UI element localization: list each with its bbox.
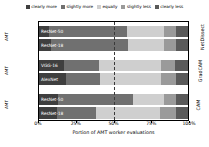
group-name-gradcam: GradCAM <box>190 68 208 74</box>
legend-label-slightly-less: slightly less <box>127 4 151 9</box>
median-reference-line <box>114 22 115 120</box>
bar-segment-clearly-less <box>176 107 188 119</box>
group-axis-label-netdissect: AMT <box>0 34 14 39</box>
legend-entry-clearly-less: clearly less <box>155 4 183 9</box>
bar-segment-equally <box>100 73 161 85</box>
plot-area: ResNet-50ResNet-18VGG-16AlexNetResNet-50… <box>38 21 189 121</box>
legend-label-clearly-less: clearly less <box>160 4 183 9</box>
bar-segment-clearly-more <box>39 39 51 51</box>
plot-inner: ResNet-50ResNet-18VGG-16AlexNetResNet-50… <box>39 22 188 120</box>
bar-segment-slightly-less <box>160 107 176 119</box>
bar-segment-equally <box>128 39 164 51</box>
x-tick-label-0: 0% <box>34 121 41 127</box>
bar-segment-slightly-more <box>64 60 98 72</box>
bar-segment-clearly-less <box>176 26 188 38</box>
group-axis-label-cam: AMT <box>0 102 14 107</box>
group-name-cam: CAM <box>190 102 208 108</box>
bar-segment-clearly-less <box>176 39 188 51</box>
legend-swatch-slightly-more <box>61 5 65 9</box>
bar-segment-slightly-more <box>51 39 128 51</box>
bar-segment-slightly-more <box>58 94 133 106</box>
bar-segment-clearly-more <box>39 73 66 85</box>
bar-segment-equally <box>127 26 164 38</box>
legend-label-slightly-more: slightly more <box>66 4 93 9</box>
legend-label-equally: equally <box>103 4 118 9</box>
legend-label-clearly-more: clearly more <box>31 4 57 9</box>
bar-segment-slightly-less <box>161 60 174 72</box>
bar-segment-slightly-more <box>57 107 96 119</box>
x-tick-label-25: 25% <box>71 121 81 127</box>
bar-segment-slightly-less <box>164 26 176 38</box>
bar-segment-equally <box>133 94 164 106</box>
bar-segment-slightly-less <box>164 39 176 51</box>
chart-legend: clearly more slightly more equally sligh… <box>0 4 209 9</box>
legend-swatch-clearly-less <box>155 5 159 9</box>
x-axis-label: Portion of AMT worker evaluations <box>38 130 189 136</box>
group-axis-label-gradcam: AMT <box>0 68 14 73</box>
legend-entry-equally: equally <box>97 4 117 9</box>
bar-segment-clearly-less <box>176 73 188 85</box>
bar-segment-slightly-more <box>66 73 100 85</box>
bar-segment-equally <box>99 60 162 72</box>
legend-swatch-slightly-less <box>121 5 125 9</box>
x-tick-label-50: 50% <box>108 121 118 127</box>
group-name-netdissect: NetDissect <box>190 34 208 40</box>
bar-segment-clearly-more <box>39 107 57 119</box>
x-tick-label-75: 75% <box>146 121 156 127</box>
x-tick-label-100: 100% <box>182 121 195 127</box>
bar-segment-equally <box>96 107 160 119</box>
legend-swatch-clearly-more <box>26 5 30 9</box>
bar-segment-slightly-less <box>164 94 176 106</box>
bar-segment-clearly-less <box>175 60 188 72</box>
legend-swatch-equally <box>97 5 101 9</box>
bar-segment-clearly-more <box>39 94 58 106</box>
bar-segment-clearly-more <box>39 26 49 38</box>
bar-segment-slightly-less <box>161 73 176 85</box>
legend-entry-slightly-less: slightly less <box>121 4 150 9</box>
bar-segment-clearly-less <box>176 94 188 106</box>
legend-entry-slightly-more: slightly more <box>61 4 93 9</box>
bar-segment-slightly-more <box>49 26 126 38</box>
legend-entry-clearly-more: clearly more <box>26 4 57 9</box>
bar-segment-clearly-more <box>39 60 64 72</box>
chart-figure: clearly more slightly more equally sligh… <box>0 0 209 147</box>
